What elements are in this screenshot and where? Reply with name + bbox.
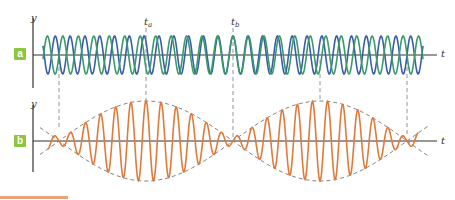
panel-b-y-label: y bbox=[31, 98, 37, 109]
time-marker-ta: ta bbox=[144, 16, 152, 29]
panel-a-t-label: t bbox=[441, 48, 445, 59]
time-marker-tb: tb bbox=[231, 16, 240, 29]
panel-b-badge: b bbox=[14, 135, 26, 147]
decorative-bottom-bar bbox=[0, 196, 68, 199]
panel-a-badge: a bbox=[14, 48, 26, 60]
beats-diagram bbox=[0, 0, 455, 200]
panel-b-t-label: t bbox=[441, 135, 445, 146]
tb-subscript: b bbox=[235, 21, 239, 29]
panel-a-y-label: y bbox=[31, 12, 37, 23]
ta-subscript: a bbox=[148, 21, 152, 29]
